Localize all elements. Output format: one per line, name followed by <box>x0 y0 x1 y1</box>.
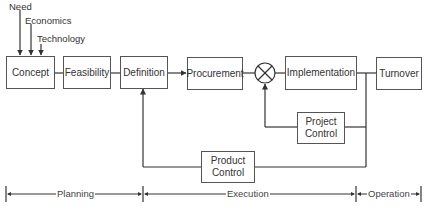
block-turnover: Turnover <box>376 57 422 90</box>
block-definition: Definition <box>120 56 168 89</box>
block-project-control-label: Project Control <box>304 116 338 140</box>
block-concept-label: Concept <box>12 67 49 79</box>
input-label-economics: Economics <box>25 15 71 26</box>
block-concept: Concept <box>6 56 55 89</box>
phase-operation: Operation <box>367 188 411 199</box>
block-implementation: Implementation <box>285 56 357 90</box>
project-lifecycle-diagram: Need Economics Technology Concept Feasib… <box>0 0 428 214</box>
block-feasibility: Feasibility <box>63 56 111 89</box>
block-product-control: Product Control <box>201 151 255 183</box>
phase-planning: Planning <box>56 188 95 199</box>
block-procurement: Procurement <box>187 57 243 90</box>
block-definition-label: Definition <box>123 67 165 79</box>
phase-execution: Execution <box>226 188 270 199</box>
block-turnover-label: Turnover <box>379 68 419 80</box>
block-procurement-label: Procurement <box>186 68 243 80</box>
input-label-need: Need <box>9 1 32 12</box>
input-label-technology: Technology <box>37 33 85 44</box>
block-project-control: Project Control <box>297 112 345 144</box>
block-feasibility-label: Feasibility <box>65 67 109 79</box>
block-implementation-label: Implementation <box>287 67 355 79</box>
block-product-control-label: Product Control <box>210 155 246 179</box>
